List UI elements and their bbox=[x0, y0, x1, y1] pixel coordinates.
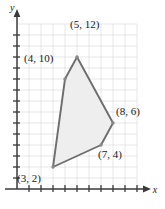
vertex-point bbox=[111, 121, 114, 124]
y-axis bbox=[14, 9, 21, 189]
vertex-point bbox=[75, 55, 78, 58]
point-label-4-10: (4, 10) bbox=[24, 52, 54, 65]
graph-svg: y x (5, 12) (4, 10) (8, 6) (7, 4) (3, 2) bbox=[0, 0, 165, 209]
point-label-7-4: (7, 4) bbox=[98, 148, 122, 161]
coordinate-plane-figure: y x (5, 12) (4, 10) (8, 6) (7, 4) (3, 2) bbox=[0, 0, 165, 209]
vertex-point bbox=[51, 165, 54, 168]
vertex-point bbox=[63, 77, 66, 80]
vertex-point bbox=[99, 143, 102, 146]
point-label-3-2: (3, 2) bbox=[17, 172, 41, 185]
y-axis-label: y bbox=[9, 2, 15, 13]
point-label-5-12: (5, 12) bbox=[70, 18, 100, 31]
point-label-8-6: (8, 6) bbox=[116, 105, 140, 118]
x-axis-label: x bbox=[152, 184, 158, 195]
x-axis bbox=[5, 186, 151, 193]
